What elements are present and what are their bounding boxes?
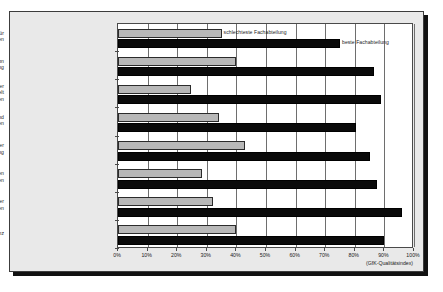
bar-group <box>118 111 412 139</box>
x-tick <box>354 248 355 251</box>
x-tick-label: 60% <box>289 252 299 258</box>
category-label-line: Krankenhausleistungen <box>0 205 4 211</box>
x-axis-caption: (GfK-Qualitätsindex) <box>366 260 413 266</box>
category-label: Interne Organisationder Krankenhausabtei… <box>0 58 4 71</box>
category-label-line: der Krankenhausabteilung <box>0 64 4 70</box>
category-label-line: Medizinische Kompetenz <box>0 230 4 236</box>
category-label-line: die Patienten <box>0 36 4 42</box>
bar-best-department <box>118 95 381 104</box>
category-label: Hotel- und Serviceleistungen fürdie Pati… <box>0 30 4 43</box>
x-tick <box>265 248 266 251</box>
x-tick-label: 20% <box>171 252 181 258</box>
x-tick-label: 0% <box>113 252 121 258</box>
category-tick <box>115 164 119 165</box>
gridline <box>414 24 415 247</box>
bar-best-department <box>118 208 402 217</box>
bar-best-department <box>118 39 340 48</box>
x-tick <box>206 248 207 251</box>
x-tick <box>324 248 325 251</box>
category-label-line: Krankenhausabteilung behandelt <box>0 89 4 95</box>
category-label: Angemessenheit derKrankenhausleistungen <box>0 198 4 211</box>
x-tick <box>383 248 384 251</box>
bar-group <box>118 167 412 195</box>
category-label: Persönliche Betreuung undZuwendung für d… <box>0 114 4 127</box>
x-tick-label: 90% <box>378 252 388 258</box>
category-tick <box>115 136 119 137</box>
bar-worst-department <box>118 169 202 178</box>
category-label-line: Krankenhausabteilung <box>0 149 4 155</box>
bar-worst-department <box>118 113 219 122</box>
x-tick-label: 70% <box>319 252 329 258</box>
bar-group <box>118 139 412 167</box>
bar-worst-department <box>118 141 245 150</box>
x-tick <box>235 248 236 251</box>
category-tick <box>115 51 119 52</box>
x-tick <box>117 248 118 251</box>
category-label-line: Angemessenheit der <box>0 198 4 204</box>
x-tick-label: 40% <box>230 252 240 258</box>
legend-annotation-worst: schlechteste Fachabteilung <box>224 29 287 35</box>
category-label: Kommunikation mit denniedergelassenen Är… <box>0 170 4 183</box>
bar-group <box>118 195 412 223</box>
x-tick-label: 80% <box>349 252 359 258</box>
bar-best-department <box>118 67 374 76</box>
category-label-line: Pflegequalität in der <box>0 142 4 148</box>
x-tick <box>295 248 296 251</box>
plot-area: schlechteste Fachabteilungbeste Fachabte… <box>117 23 413 248</box>
x-axis: 0%10%20%30%40%50%60%70%80%90%100% (GfK-Q… <box>117 248 413 274</box>
bar-worst-department <box>118 57 236 66</box>
bar-best-department <box>118 180 377 189</box>
x-tick <box>413 248 414 251</box>
legend-annotation-best: beste Fachabteilung <box>342 39 389 45</box>
x-tick <box>147 248 148 251</box>
category-label-line: zu werden <box>0 96 4 102</box>
bar-worst-department <box>118 197 213 206</box>
bar-group <box>118 83 412 111</box>
bar-best-department <box>118 236 384 245</box>
category-tick <box>115 79 119 80</box>
chart-figure: schlechteste Fachabteilungbeste Fachabte… <box>9 11 424 272</box>
bar-worst-department <box>118 29 222 38</box>
category-tick <box>115 192 119 193</box>
category-tick <box>115 220 119 221</box>
bar-worst-department <box>118 85 191 94</box>
category-label-line: niedergelassenen Ärzten <box>0 177 4 183</box>
x-tick-label: 50% <box>260 252 270 258</box>
category-tick <box>115 107 119 108</box>
x-tick <box>176 248 177 251</box>
category-label-line: Kommunikation mit den <box>0 170 4 176</box>
x-tick-label: 100% <box>406 252 419 258</box>
category-label: Pflegequalität in derKrankenhausabteilun… <box>0 142 4 155</box>
bar-worst-department <box>118 225 236 234</box>
category-label: Medizinische Kompetenz <box>0 230 4 236</box>
x-tick-label: 10% <box>141 252 151 258</box>
bar-group <box>118 55 412 83</box>
bar-best-department <box>118 123 356 132</box>
x-tick-label: 30% <box>201 252 211 258</box>
category-label-line: Zuwendung für die Patienten <box>0 120 4 126</box>
category-label: Wunsch der Patienten, in dieserKrankenha… <box>0 83 4 102</box>
bar-best-department <box>118 152 370 161</box>
